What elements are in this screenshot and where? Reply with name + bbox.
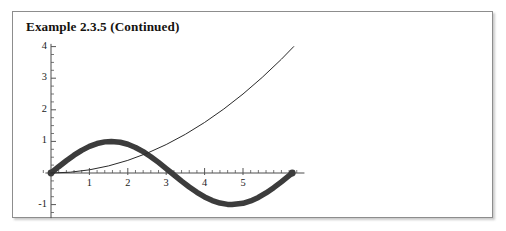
- y-tick-label: 3: [25, 71, 47, 82]
- curve-endpoint-dot: [289, 170, 296, 177]
- x-tick-label: 1: [81, 177, 97, 188]
- x-tick-label: 5: [235, 177, 251, 188]
- y-tick-label: 4: [25, 40, 47, 51]
- figure-frame: Example 2.3.5 (Continued) 4321-112345: [12, 11, 493, 218]
- x-tick-label: 2: [120, 177, 136, 188]
- y-tick-label: -1: [25, 198, 47, 209]
- x-tick-label: 4: [197, 177, 213, 188]
- x-tick-label: 3: [158, 177, 174, 188]
- y-tick-label: 1: [25, 134, 47, 145]
- y-tick-label: 2: [25, 103, 47, 114]
- curve-thin: [51, 47, 294, 173]
- plot-area: 4321-112345: [13, 12, 494, 219]
